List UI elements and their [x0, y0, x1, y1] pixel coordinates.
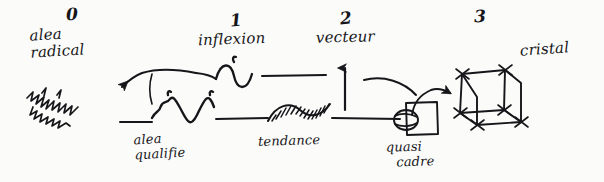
baseline-mid-left	[216, 118, 268, 119]
stage-number-1: 1	[229, 12, 243, 31]
upper-connector-line	[262, 75, 326, 76]
wiggly-noise-icon	[152, 91, 214, 122]
stage-label-alea-radical: alea radical	[29, 24, 85, 61]
cube-lattice-icon	[454, 65, 528, 130]
stage-number-2: 2	[339, 9, 353, 28]
helix-spiral-icon	[268, 104, 330, 121]
part-label-quasi-cadre-line2: cadre	[396, 154, 435, 170]
baseline-mid-right	[332, 118, 400, 119]
part-label-alea-qualifie-line2: qualifie	[134, 145, 186, 163]
s-curve-inflection-icon	[216, 57, 252, 87]
feedback-arrow-tail	[196, 73, 216, 79]
chaotic-scribble-icon	[27, 88, 78, 128]
stage-label-cristal: cristal	[520, 40, 570, 59]
upper-right-curve	[364, 78, 416, 95]
stage-number-0: 0	[66, 6, 79, 24]
stage-label-vecteur: vecteur	[316, 29, 375, 46]
part-label-quasi-cadre: quasi cadre	[386, 139, 435, 170]
hand-drawn-diagram: 0 alea radical 1 inflexion 2 vecteur 3 c…	[0, 0, 604, 182]
feedback-arrow-path	[122, 70, 196, 87]
branch-hook-path	[150, 74, 152, 104]
part-label-alea-qualifie: alea qualifie	[133, 130, 186, 162]
part-label-tendance: tendance	[258, 133, 321, 149]
sketch-layer	[0, 0, 604, 182]
stage-label-alea-radical-line2: radical	[30, 41, 85, 61]
stage-number-3: 3	[474, 8, 486, 26]
stage-label-inflexion: inflexion	[198, 31, 266, 49]
